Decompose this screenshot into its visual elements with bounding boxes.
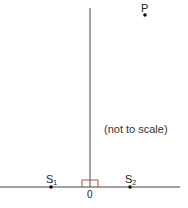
label-s1-sub: 1: [53, 179, 57, 186]
not-to-scale-note: (not to scale): [104, 123, 168, 135]
label-p: P: [141, 3, 148, 14]
label-s2: S2: [125, 174, 136, 186]
label-s2-sub: 2: [132, 179, 136, 186]
diagram-canvas: [0, 0, 188, 208]
label-origin: 0: [87, 190, 93, 200]
label-s1: S1: [46, 174, 57, 186]
